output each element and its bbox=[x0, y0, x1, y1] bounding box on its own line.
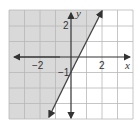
tick-label-x-neg2: −2 bbox=[32, 60, 44, 71]
tick-label-y-neg1: −1 bbox=[58, 67, 70, 78]
tick-label-x-2: 2 bbox=[99, 60, 105, 71]
x-axis-label: x bbox=[124, 59, 130, 71]
inequality-graph: y x −2 2 2 −1 bbox=[0, 0, 140, 125]
y-axis-label: y bbox=[75, 7, 81, 19]
tick-label-y-2: 2 bbox=[63, 20, 69, 31]
